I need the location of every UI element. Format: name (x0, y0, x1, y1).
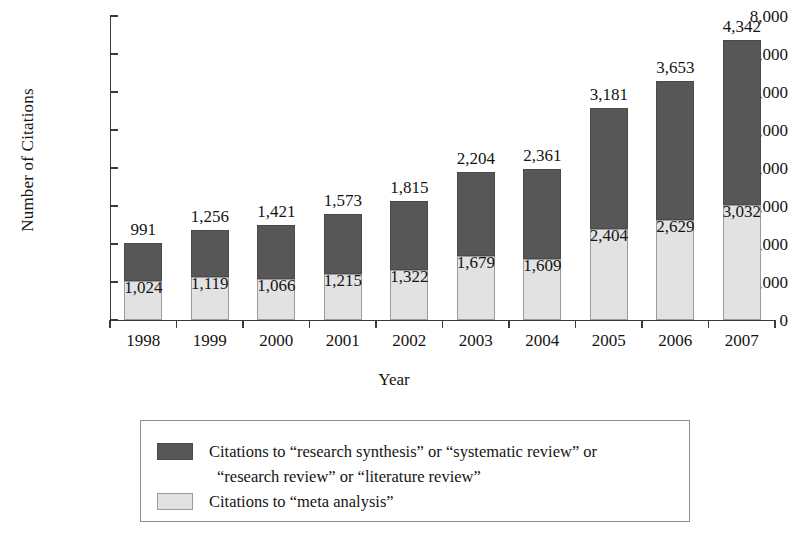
bar-segment-research-synthesis (324, 214, 362, 274)
x-tick (109, 320, 110, 328)
y-tick (110, 319, 118, 320)
y-tick (110, 53, 118, 54)
x-tick (176, 320, 177, 328)
value-label-meta-analysis: 1,609 (502, 257, 582, 274)
y-tick (110, 15, 118, 16)
y-tick (110, 167, 118, 168)
legend-label-line2: “research review” or “literature review” (217, 464, 481, 489)
bar-segment-research-synthesis (124, 243, 162, 281)
value-label-research-synthesis: 4,342 (702, 18, 782, 35)
value-label-meta-analysis: 3,032 (702, 203, 782, 220)
bar-segment-research-synthesis (656, 81, 694, 220)
y-tick (110, 205, 118, 206)
value-label-research-synthesis: 2,361 (502, 147, 582, 164)
x-axis-title: Year (0, 370, 788, 390)
x-tick (309, 320, 310, 328)
bar-segment-research-synthesis (257, 225, 295, 279)
y-tick (110, 243, 118, 244)
x-tick (442, 320, 443, 328)
y-tick (110, 91, 118, 92)
bar-2003 (457, 0, 495, 340)
legend-swatch-dark-icon (157, 443, 193, 460)
bar-segment-research-synthesis (191, 230, 229, 278)
chart-legend: Citations to “research synthesis” or “sy… (140, 420, 690, 522)
bar-segment-research-synthesis (723, 40, 761, 205)
bar-2005 (590, 0, 628, 340)
stacked-bar-chart: Number of Citations 01,0002,0003,0004,00… (0, 0, 788, 541)
x-tick (641, 320, 642, 328)
legend-swatch-light-icon (157, 493, 193, 510)
bar-segment-meta-analysis (723, 205, 761, 320)
x-tick (708, 320, 709, 328)
value-label-research-synthesis: 1,815 (369, 179, 449, 196)
x-tick (375, 320, 376, 328)
legend-label-meta: Citations to “meta analysis” (209, 489, 394, 514)
bar-2007 (723, 0, 761, 340)
x-tick (774, 320, 775, 328)
legend-label-line1: Citations to “research synthesis” or “sy… (209, 439, 597, 464)
bar-segment-research-synthesis (390, 201, 428, 270)
y-tick (110, 129, 118, 130)
bar-2002 (390, 0, 428, 340)
bar-2006 (656, 0, 694, 340)
bar-2004 (523, 0, 561, 340)
y-axis-title: Number of Citations (18, 40, 38, 280)
x-tick (508, 320, 509, 328)
value-label-meta-analysis: 2,629 (635, 218, 715, 235)
x-tick (242, 320, 243, 328)
value-label-research-synthesis: 3,653 (635, 59, 715, 76)
value-label-research-synthesis: 3,181 (569, 86, 649, 103)
bar-segment-research-synthesis (457, 172, 495, 256)
bar-segment-research-synthesis (523, 169, 561, 259)
x-tick (575, 320, 576, 328)
bar-segment-research-synthesis (590, 108, 628, 229)
